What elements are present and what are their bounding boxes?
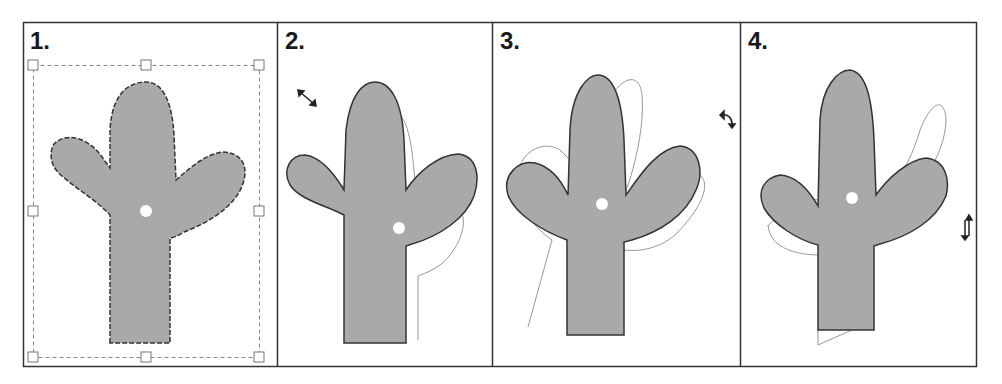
panel-3-label: 3. xyxy=(500,29,520,53)
panel-1 xyxy=(28,60,264,362)
panel-2-label: 2. xyxy=(285,29,305,53)
cactus-shape[interactable] xyxy=(761,70,947,330)
pivot-dot xyxy=(846,192,858,204)
resize-handle-sw[interactable] xyxy=(28,352,38,362)
pivot-dot xyxy=(140,205,152,217)
panel-2 xyxy=(287,82,477,343)
diagonal-resize-icon xyxy=(298,90,316,106)
resize-handle-se[interactable] xyxy=(254,352,264,362)
resize-handle-ne[interactable] xyxy=(254,60,264,70)
panel-1-label: 1. xyxy=(30,29,50,53)
flip-vertical-icon xyxy=(962,215,972,240)
figure-canvas xyxy=(0,0,1002,384)
cactus-shape[interactable] xyxy=(507,75,700,335)
panel-3 xyxy=(507,75,735,335)
resize-handle-s[interactable] xyxy=(141,352,151,362)
pivot-dot xyxy=(596,198,608,210)
resize-handle-n[interactable] xyxy=(141,60,151,70)
resize-handle-nw[interactable] xyxy=(28,60,38,70)
cactus-shape[interactable] xyxy=(51,82,245,343)
resize-handle-w[interactable] xyxy=(28,206,38,216)
transform-steps-figure: 1. 2. 3. 4. xyxy=(0,0,1002,384)
panel-4 xyxy=(761,70,972,345)
pivot-dot xyxy=(393,222,405,234)
resize-handle-e[interactable] xyxy=(254,206,264,216)
rotate-icon xyxy=(720,111,735,128)
cactus-shape[interactable] xyxy=(287,82,477,343)
panel-4-label: 4. xyxy=(748,29,768,53)
